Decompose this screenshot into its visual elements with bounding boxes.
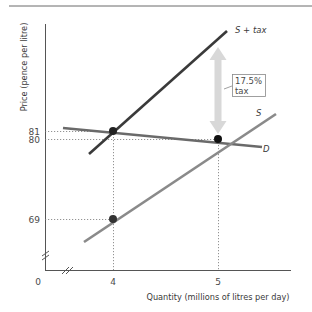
- y-tick-69: 69: [29, 215, 41, 225]
- supply-plus-tax-curve: [89, 31, 227, 154]
- seller-price-point: [109, 215, 117, 223]
- supply-label: S: [256, 108, 262, 118]
- x-axis-title: Quantity (millions of litres per day): [146, 292, 289, 302]
- equilibrium-with-tax-point: [109, 127, 117, 135]
- tax-label-line2: tax: [235, 86, 249, 96]
- x-tick-4: 4: [110, 277, 116, 287]
- x-tick-5: 5: [215, 277, 221, 287]
- tax-incidence-chart: 17.5% tax S + tax S D 81 80 69 0 4 5 Qua…: [0, 0, 312, 312]
- y-axis-title: Price (pence per litre): [19, 23, 29, 112]
- supply-plus-tax-label: S + tax: [235, 25, 267, 35]
- tax-double-arrow-icon: [210, 47, 227, 134]
- demand-label: D: [263, 144, 270, 154]
- tax-label-line1: 17.5%: [235, 76, 262, 86]
- x-tick-0: 0: [35, 277, 41, 287]
- y-tick-80: 80: [29, 135, 41, 145]
- equilibrium-no-tax-point: [214, 135, 222, 143]
- tax-label-box: 17.5% tax: [224, 75, 266, 97]
- guide-lines: [45, 131, 219, 270]
